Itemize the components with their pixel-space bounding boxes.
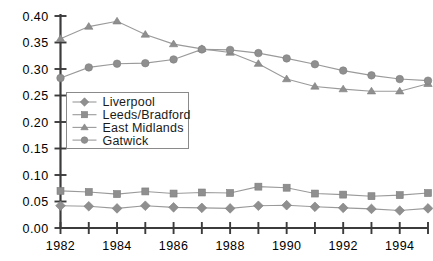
data-point-square <box>57 187 64 194</box>
legend-label: Gatwick <box>103 134 149 148</box>
data-point-circle <box>85 64 93 72</box>
chart-legend: LiverpoolLeeds/BradfordEast MidlandsGatw… <box>67 93 191 149</box>
data-point-circle <box>113 60 121 68</box>
y-tick-label: 0.25 <box>23 89 49 103</box>
chart-background <box>0 0 433 261</box>
x-tick-label: 1988 <box>215 239 244 253</box>
data-point-circle <box>255 49 263 57</box>
data-point-circle <box>198 46 206 54</box>
data-point-circle <box>339 67 347 75</box>
data-point-square <box>368 193 375 200</box>
data-point-circle <box>57 74 65 82</box>
data-point-circle <box>81 137 88 144</box>
data-point-square <box>198 189 205 196</box>
data-point-square <box>396 192 403 199</box>
data-point-square <box>340 191 347 198</box>
data-point-square <box>283 184 290 191</box>
y-tick-label: 0.10 <box>23 169 49 183</box>
y-tick-label: 0.35 <box>23 36 49 50</box>
x-tick-label: 1982 <box>46 239 75 253</box>
data-point-circle <box>226 46 234 54</box>
y-tick-label: 0.15 <box>23 142 49 156</box>
y-tick-label: 0.05 <box>23 195 49 209</box>
data-point-square <box>255 183 262 190</box>
data-point-circle <box>170 56 178 64</box>
y-tick-label: 0.30 <box>23 63 49 77</box>
data-point-circle <box>142 59 150 67</box>
data-point-circle <box>396 75 404 83</box>
line-chart: 0.000.050.100.150.200.250.300.350.40 198… <box>0 0 433 261</box>
data-point-square <box>114 191 121 198</box>
data-point-square <box>85 188 92 195</box>
data-point-square <box>311 190 318 197</box>
data-point-circle <box>424 77 432 85</box>
x-tick-label: 1990 <box>272 239 301 253</box>
y-axis-labels: 0.000.050.100.150.200.250.300.350.40 <box>23 10 49 236</box>
data-point-square <box>170 190 177 197</box>
x-tick-label: 1992 <box>328 239 357 253</box>
data-point-circle <box>368 72 376 80</box>
data-point-circle <box>283 55 291 63</box>
data-point-square <box>425 190 432 197</box>
x-tick-label: 1986 <box>159 239 188 253</box>
data-point-square <box>142 188 149 195</box>
data-point-circle <box>311 60 319 68</box>
y-tick-label: 0.00 <box>23 222 49 236</box>
x-tick-label: 1994 <box>385 239 414 253</box>
y-tick-label: 0.40 <box>23 10 49 24</box>
data-point-square <box>227 190 234 197</box>
chart-svg: 0.000.050.100.150.200.250.300.350.40 198… <box>0 0 433 261</box>
data-point-square <box>81 112 87 118</box>
x-tick-label: 1984 <box>102 239 131 253</box>
y-tick-label: 0.20 <box>23 116 49 130</box>
